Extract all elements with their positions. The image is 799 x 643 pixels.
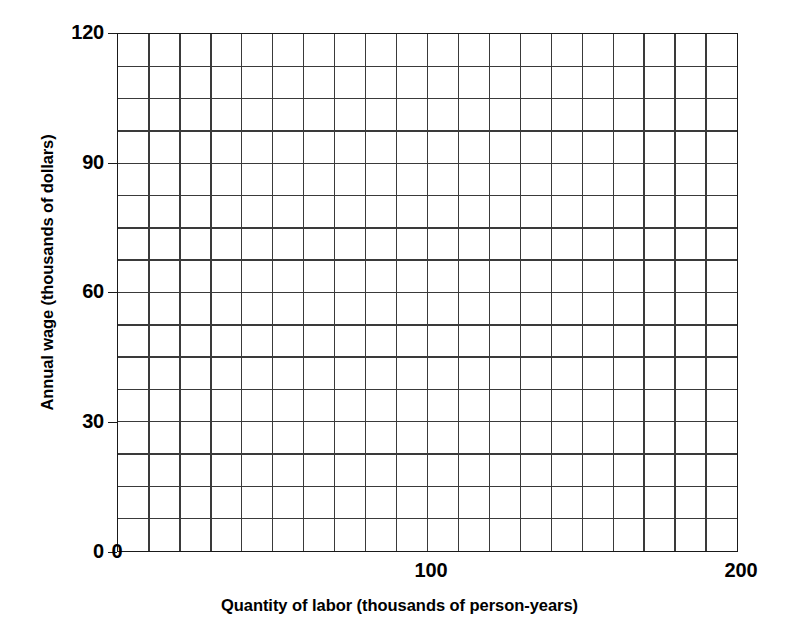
x-tick-label-200: 200 [696, 560, 786, 580]
x-tick-label-100: 100 [386, 560, 476, 580]
x-tick-label-0: 0 [72, 541, 162, 561]
x-axis-title: Quantity of labor (thousands of person-y… [0, 596, 799, 615]
x-axis-tick-labels: 0 100 200 [0, 0, 799, 643]
blank-graph-figure: Annual wage (thousands of dollars) 120 9… [0, 0, 799, 643]
